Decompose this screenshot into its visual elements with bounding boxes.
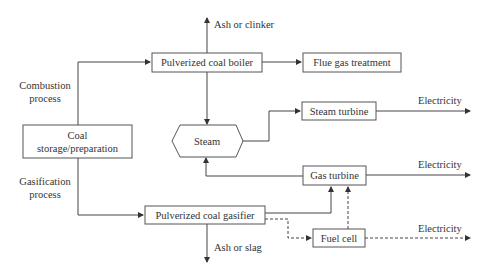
arrow-gasifier-to-gas-turbine bbox=[265, 187, 331, 213]
fuel-cell-label: Fuel cell bbox=[321, 233, 358, 244]
node-steam-turbine: Steam turbine bbox=[302, 102, 376, 120]
ash-slag-label: Ash or slag bbox=[214, 242, 263, 253]
node-steam: Steam bbox=[172, 125, 243, 157]
boiler-label: Pulverized coal boiler bbox=[161, 57, 254, 68]
combustion-label-1: Combustion bbox=[19, 80, 71, 91]
steam-turbine-label: Steam turbine bbox=[310, 106, 369, 117]
electricity-steam-label: Electricity bbox=[418, 95, 462, 106]
node-boiler: Pulverized coal boiler bbox=[152, 53, 262, 72]
node-gas-turbine: Gas turbine bbox=[303, 166, 366, 185]
electricity-fuel-label: Electricity bbox=[418, 223, 462, 234]
arrow-gas-turbine-to-steam bbox=[206, 158, 303, 176]
node-coal-storage: Coal storage/preparation bbox=[23, 125, 132, 158]
gasifier-label: Pulverized coal gasifier bbox=[155, 210, 255, 221]
node-gasifier: Pulverized coal gasifier bbox=[145, 206, 265, 224]
gas-turbine-label: Gas turbine bbox=[310, 170, 359, 181]
node-fuel-cell: Fuel cell bbox=[313, 229, 365, 247]
gasification-label-2: process bbox=[29, 189, 61, 200]
node-flue-gas-treatment: Flue gas treatment bbox=[303, 53, 401, 72]
arrow-gasifier-to-fuel-cell bbox=[265, 219, 311, 238]
connectors bbox=[78, 18, 470, 262]
combustion-label-2: process bbox=[29, 93, 61, 104]
coal-storage-line2: storage/preparation bbox=[37, 143, 119, 154]
ash-clinker-label: Ash or clinker bbox=[214, 19, 275, 30]
gasification-label-1: Gasification bbox=[19, 176, 71, 187]
coal-storage-line1: Coal bbox=[68, 130, 88, 141]
arrow-coal-to-boiler bbox=[78, 62, 150, 125]
arrow-steam-to-turbine bbox=[242, 111, 300, 141]
flue-gas-label: Flue gas treatment bbox=[313, 57, 391, 68]
coal-process-diagram: Coal storage/preparation Pulverized coal… bbox=[0, 0, 487, 268]
steam-label: Steam bbox=[194, 136, 220, 147]
electricity-gas-label: Electricity bbox=[418, 159, 462, 170]
arrow-coal-to-gasifier bbox=[78, 158, 143, 215]
